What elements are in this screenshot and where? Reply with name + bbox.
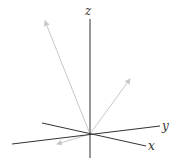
vector-upper-right [90, 79, 130, 134]
vector-upper-left [45, 21, 90, 134]
x-axis-label: x [148, 139, 155, 153]
y-axis [12, 126, 160, 144]
z-axis-label: z [84, 4, 92, 18]
x-axis [42, 123, 146, 146]
y-axis-label: y [161, 119, 169, 133]
axes-diagram: z y x [0, 0, 178, 168]
